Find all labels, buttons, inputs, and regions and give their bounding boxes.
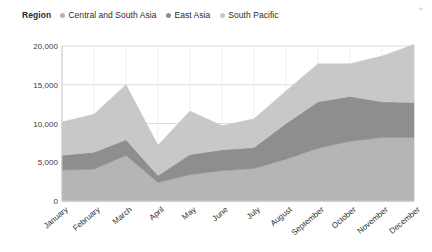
area-chart: Region Central and South Asia East Asia … bbox=[0, 0, 432, 252]
y-axis-tick-label: 15,000 bbox=[14, 80, 58, 89]
y-axis-tick-label: 5,000 bbox=[14, 158, 58, 167]
y-axis-tick-label: 0 bbox=[14, 197, 58, 206]
y-axis-tick-label: 20,000 bbox=[14, 42, 58, 51]
y-axis-tick-label: 10,000 bbox=[14, 119, 58, 128]
